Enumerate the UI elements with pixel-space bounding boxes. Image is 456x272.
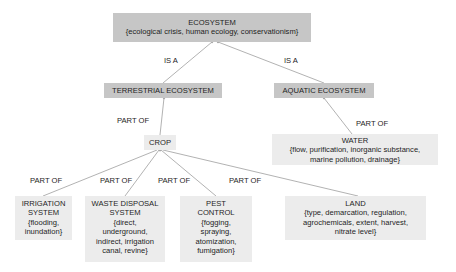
edge-label-part-of-land: PART OF — [229, 176, 261, 185]
edge-waste-crop — [125, 150, 159, 196]
node-attributes: canal, revine} — [85, 246, 165, 255]
node-attributes: inundation} — [15, 227, 72, 236]
node-attributes: fumigation} — [180, 246, 252, 255]
node-title: CONTROL — [180, 208, 252, 217]
node-attributes: indirect, irrigation — [85, 237, 165, 246]
edge-irrigation-crop — [43, 150, 157, 196]
edge-crop-terrestrial — [160, 98, 164, 135]
node-title: TERRESTRIAL ECOSYSTEM — [104, 86, 222, 95]
node-title: SYSTEM — [15, 208, 72, 217]
edge-label-part-of-waste: PART OF — [100, 176, 132, 185]
node-attributes: spraying, — [180, 227, 252, 236]
node-title: WASTE DISPOSAL — [85, 199, 165, 208]
node-attributes: agrochemicals, extent, harvest, — [285, 218, 426, 227]
node-title: AQUATIC ECOSYSTEM — [274, 86, 374, 95]
node-attributes: {fogging, — [180, 218, 252, 227]
edge-label-part-of-crop: PART OF — [117, 116, 149, 125]
node-terrestrial-ecosystem: TERRESTRIAL ECOSYSTEM — [104, 83, 222, 98]
node-irrigation-system: IRRIGATION SYSTEM {flooding, inundation} — [15, 196, 72, 240]
edge-label-is-a-aquatic: IS A — [284, 56, 298, 65]
node-title: ECOSYSTEM — [113, 18, 311, 27]
edge-pest-crop — [161, 150, 216, 196]
node-title: WATER — [272, 136, 438, 145]
node-title: IRRIGATION — [15, 199, 72, 208]
edge-aquatic-ecosystem — [218, 42, 324, 83]
node-attributes: {flow, purification, inorganic substance… — [272, 145, 438, 154]
node-title: SYSTEM — [85, 208, 165, 217]
edge-label-part-of-water: PART OF — [356, 119, 388, 128]
node-attributes: {direct, — [85, 218, 165, 227]
edge-water-aquatic — [324, 98, 352, 134]
node-attributes: underground, — [85, 227, 165, 236]
node-pest-control: PEST CONTROL {fogging, spraying, atomiza… — [180, 196, 252, 262]
node-title: LAND — [285, 199, 426, 208]
node-attributes: nitrate level} — [285, 227, 426, 236]
node-crop: CROP — [144, 135, 176, 150]
node-attributes: atomization, — [180, 237, 252, 246]
node-aquatic-ecosystem: AQUATIC ECOSYSTEM — [274, 83, 374, 98]
edge-label-part-of-irrigation: PART OF — [30, 176, 62, 185]
node-attributes: marine pollution, drainage} — [272, 155, 438, 164]
node-attributes: {flooding, — [15, 218, 72, 227]
node-attributes: {type, demarcation, regulation, — [285, 208, 426, 217]
node-title: CROP — [144, 138, 176, 147]
node-land: LAND {type, demarcation, regulation, agr… — [285, 196, 426, 240]
node-ecosystem: ECOSYSTEM {ecological crisis, human ecol… — [113, 13, 311, 42]
edge-label-is-a-terrestrial: IS A — [164, 56, 178, 65]
node-attributes: {ecological crisis, human ecology, conse… — [113, 27, 311, 36]
node-title: PEST — [180, 199, 252, 208]
node-waste-disposal-system: WASTE DISPOSAL SYSTEM {direct, undergrou… — [85, 196, 165, 262]
node-water: WATER {flow, purification, inorganic sub… — [272, 134, 438, 165]
edge-label-part-of-pest: PART OF — [158, 176, 190, 185]
